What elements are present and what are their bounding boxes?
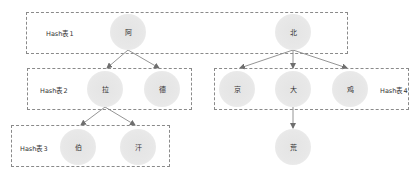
tree-node: 德: [144, 71, 180, 107]
tree-node: 北: [275, 14, 311, 50]
node-label: 汗: [135, 142, 142, 152]
tree-node: 大: [275, 71, 311, 107]
hash-tree-diagram: Hash表1Hash表2Hash表3Hash表4 阿北拉德京大鸡伯汗荒: [0, 0, 419, 181]
hash-table-label: Hash表2: [40, 85, 68, 95]
tree-node: 荒: [275, 129, 311, 165]
node-label: 京: [234, 84, 241, 94]
hash-table-label: Hash表3: [20, 143, 48, 153]
node-label: 荒: [290, 142, 297, 152]
tree-node: 京: [219, 71, 255, 107]
hash-table-label: Hash表1: [46, 28, 74, 38]
hash-table-label: Hash表4: [380, 85, 408, 95]
node-label: 大: [290, 84, 297, 94]
tree-node: 阿: [110, 14, 146, 50]
node-label: 鸡: [347, 84, 354, 94]
node-label: 拉: [102, 84, 109, 94]
tree-node: 汗: [120, 129, 156, 165]
tree-node: 拉: [87, 71, 123, 107]
node-label: 伯: [75, 142, 82, 152]
node-label: 北: [290, 27, 297, 37]
tree-node: 鸡: [332, 71, 368, 107]
node-label: 德: [159, 84, 166, 94]
tree-node: 伯: [60, 129, 96, 165]
node-label: 阿: [125, 27, 132, 37]
